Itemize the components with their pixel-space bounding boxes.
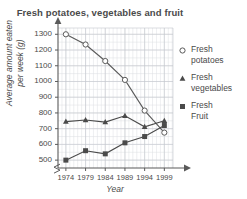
chart-container: Fresh potatoes, vegetables and fruit Ave… xyxy=(0,0,247,199)
y-axis-break-icon xyxy=(54,164,60,173)
minor-gridlines xyxy=(58,28,173,168)
legend-entry: FreshFruit xyxy=(178,100,244,121)
legend-label-line1: Fresh xyxy=(191,72,213,82)
legend-label-line1: Fresh xyxy=(191,100,213,110)
y-tick-label: 900 xyxy=(24,92,52,101)
legend-entry: Freshpotatoes xyxy=(178,44,244,65)
axis-ticks xyxy=(55,34,164,171)
chart-legend: FreshpotatoesFreshvegetablesFreshFruit xyxy=(178,44,244,128)
major-gridlines xyxy=(58,28,173,168)
axis-lines xyxy=(55,17,191,171)
legend-label-line1: Fresh xyxy=(191,44,213,54)
legend-label-line2: vegetables xyxy=(191,83,232,93)
legend-label-line2: potatoes xyxy=(191,55,224,65)
y-tick-label: 1300 xyxy=(24,29,52,38)
y-tick-label: 1100 xyxy=(24,61,52,70)
x-tick-label: 1999 xyxy=(151,173,177,182)
y-tick-label: 1200 xyxy=(24,45,52,54)
y-tick-label: 500 xyxy=(24,155,52,164)
open-circle-icon xyxy=(178,46,187,55)
filled-triangle-icon xyxy=(178,74,187,83)
legend-entry: Freshvegetables xyxy=(178,72,244,93)
series-open-circle xyxy=(63,32,167,136)
y-tick-label: 800 xyxy=(24,108,52,117)
legend-label-line2: Fruit xyxy=(191,111,208,121)
y-tick-label: 1000 xyxy=(24,76,52,85)
y-tick-label: 700 xyxy=(24,124,52,133)
x-axis-label: Year xyxy=(55,184,175,194)
filled-square-icon xyxy=(178,102,187,111)
y-tick-label: 600 xyxy=(24,139,52,148)
